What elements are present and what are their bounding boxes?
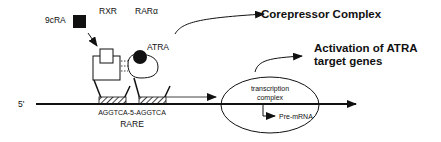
9cra-label: 9cRA (45, 15, 66, 25)
transcription-complex-label-line2: complex (257, 94, 284, 102)
activation-arrow (255, 56, 302, 72)
9cra-ligand-square (73, 15, 86, 28)
pre-mrna-arrow (263, 104, 275, 116)
transcription-complex-label-line1: transcription (251, 85, 289, 93)
rar-alpha-label: RARα (135, 6, 158, 16)
rxr-ligand-pocket (100, 49, 113, 63)
rare-half-site-2 (139, 97, 166, 104)
activation-label-line1: Activation of ATRA (314, 42, 418, 54)
corepressor-release-arrow (175, 14, 264, 34)
activation-label-line2: target genes (314, 55, 382, 67)
9cra-binding-arrow (88, 33, 97, 46)
rxr-label: RXR (99, 6, 117, 16)
rar-rxr-signaling-diagram: 9cRA RXR RARα ATRA 5' AGGTCA-5-AGGTCA RA… (0, 0, 441, 142)
rare-half-site-1 (99, 97, 126, 104)
atra-ligand-circle (133, 50, 147, 64)
rare-sequence-label: AGGTCA-5-AGGTCA (98, 109, 166, 116)
five-prime-label: 5' (18, 99, 25, 109)
corepressor-complex-label: Corepressor Complex (261, 8, 382, 20)
atra-label: ATRA (147, 42, 169, 52)
pre-mrna-label: Pre-mRNA (279, 113, 313, 120)
rare-label: RARE (120, 119, 144, 129)
